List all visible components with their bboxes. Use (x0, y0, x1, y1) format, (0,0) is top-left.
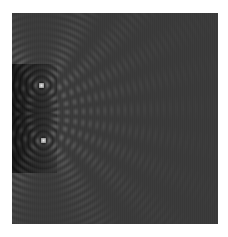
interference-pattern-image (12, 13, 218, 224)
caption-area (0, 226, 228, 237)
wave-canvas (12, 13, 218, 224)
